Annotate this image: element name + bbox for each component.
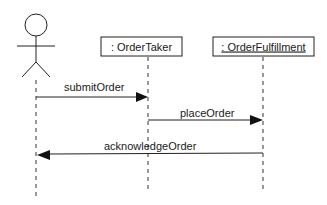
arrowhead-icon bbox=[250, 115, 263, 125]
sequence-diagram: : OrderTaker : OrderFulfillment submitOr… bbox=[0, 0, 327, 205]
actor-icon bbox=[17, 14, 55, 77]
message-label-placeorder: placeOrder bbox=[180, 107, 235, 119]
arrowhead-icon bbox=[136, 92, 148, 102]
lifeline-label-orderfulfillment: : OrderFulfillment bbox=[221, 41, 305, 53]
message-label-acknowledgeorder: acknowledgeOrder bbox=[104, 140, 197, 152]
message-submitorder: submitOrder bbox=[36, 81, 148, 102]
lifeline-label-ordertaker: : OrderTaker bbox=[111, 41, 172, 53]
lifeline-box-orderfulfillment: : OrderFulfillment bbox=[213, 37, 314, 56]
arrowhead-icon bbox=[37, 150, 50, 160]
message-label-submitorder: submitOrder bbox=[64, 81, 125, 93]
message-placeorder: placeOrder bbox=[148, 107, 263, 125]
lifeline-box-ordertaker: : OrderTaker bbox=[101, 37, 182, 56]
message-acknowledgeorder: acknowledgeOrder bbox=[37, 140, 263, 160]
